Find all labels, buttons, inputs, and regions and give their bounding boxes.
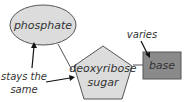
nucleotide-diagram: phosphate deoxyribose sugar base stays t… bbox=[0, 0, 184, 102]
base-label: base bbox=[149, 59, 175, 72]
stays-arrow-to-sugar bbox=[46, 78, 70, 82]
stays-the-label: stays the bbox=[1, 71, 47, 82]
stays-arrow-to-phosphate bbox=[32, 46, 34, 68]
arrowhead-icon bbox=[69, 75, 75, 81]
phosphate-node: phosphate bbox=[10, 5, 76, 45]
same-label: same bbox=[10, 84, 37, 95]
varies-label: varies bbox=[127, 29, 157, 40]
sugar-label-line2: sugar bbox=[88, 76, 120, 89]
sugar-node: deoxyribose sugar bbox=[69, 46, 137, 99]
sugar-label-line1: deoxyribose bbox=[69, 62, 137, 75]
phosphate-label: phosphate bbox=[13, 19, 72, 32]
